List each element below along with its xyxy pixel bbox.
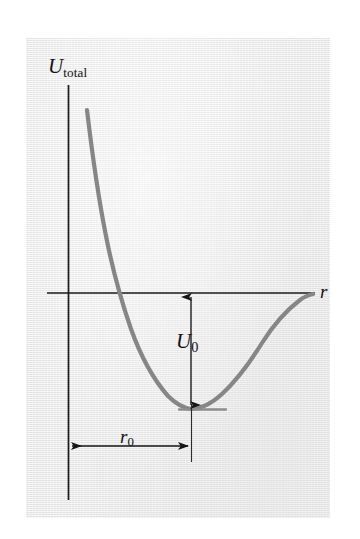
u-zero-label-variable: U [176, 329, 191, 353]
figure-root: Utotal r U0 r0 [0, 0, 360, 539]
u-zero-label: U0 [176, 331, 198, 354]
potential-energy-plot [0, 0, 360, 539]
x-axis-label-variable: r [320, 281, 327, 302]
y-axis-label: Utotal [48, 56, 87, 79]
r-zero-label: r0 [120, 427, 134, 449]
potential-energy-curve [87, 110, 313, 409]
u-zero-label-subscript: 0 [191, 339, 198, 355]
y-axis-label-variable: U [48, 54, 63, 78]
r-zero-label-subscript: 0 [127, 434, 133, 449]
y-axis-label-subscript: total [63, 65, 87, 80]
x-axis-label: r [320, 282, 327, 301]
